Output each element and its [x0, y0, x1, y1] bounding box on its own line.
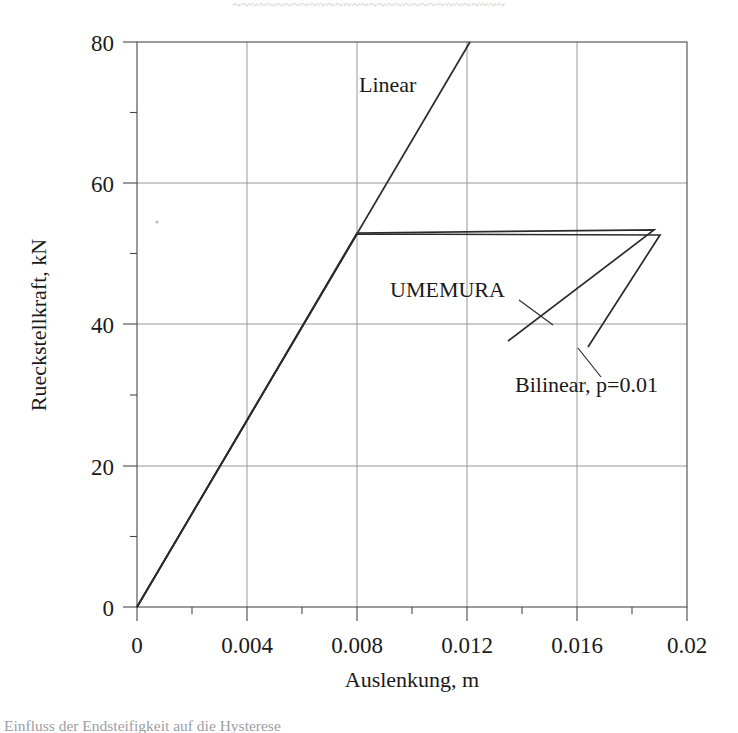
y-tick-label: 0: [103, 596, 115, 621]
grid-lines: [137, 42, 687, 607]
x-axis-tick-labels: 0 0.004 0.008 0.012 0.016 0.02: [131, 633, 707, 658]
y-axis-title: Rueckstellkraft, kN: [26, 239, 51, 411]
plot-frame: [137, 42, 687, 607]
figure-container: ~~~~~~~~~~~~~~~~~~~~~~~~~~~~~~~~: [0, 0, 738, 733]
x-tick-label: 0.004: [221, 633, 273, 658]
leader-line-umemura: [519, 300, 553, 325]
x-tick-label: 0.016: [551, 633, 603, 658]
annotation-bilinear: Bilinear, p=0.01: [515, 372, 658, 397]
bottom-caption: Einfluss der Endsteifigkeit auf die Hyst…: [0, 711, 738, 733]
y-tick-label: 40: [91, 313, 114, 338]
x-tick-label: 0.012: [441, 633, 493, 658]
x-axis-minor-ticks: [192, 607, 632, 614]
x-tick-label: 0: [131, 633, 143, 658]
annotation-umemura: UMEMURA: [390, 277, 505, 302]
hysteresis-chart: 80 60 40 20 0 0 0.004 0.008 0.012 0.016 …: [0, 0, 738, 733]
y-tick-label: 60: [91, 172, 114, 197]
y-tick-label: 80: [91, 31, 114, 56]
y-axis-tick-labels: 80 60 40 20 0: [91, 31, 114, 621]
scan-speck: [155, 220, 158, 223]
annotation-linear: Linear: [359, 72, 417, 97]
x-axis-title: Auslenkung, m: [345, 667, 479, 692]
top-bleed-text: ~~~~~~~~~~~~~~~~~~~~~~~~~~~~~~~~: [0, 0, 738, 16]
y-tick-label: 20: [91, 455, 114, 480]
x-tick-label: 0.02: [667, 633, 707, 658]
x-tick-label: 0.008: [331, 633, 383, 658]
y-axis-major-ticks: [123, 42, 137, 607]
